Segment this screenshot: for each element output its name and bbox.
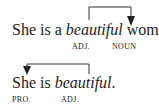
sentence-text: She is a (12, 21, 66, 38)
emphasized-adjective: beautiful (55, 74, 112, 91)
sentence-text: She is (12, 74, 55, 91)
sentence-text: woman. (123, 21, 159, 38)
sentence-text: . (112, 74, 116, 91)
part-of-speech-label-noun: NOUN (112, 43, 136, 51)
example-sentence-1: She is a beautiful woman. (12, 22, 159, 38)
emphasized-adjective: beautiful (66, 21, 123, 38)
part-of-speech-label-adj: ADJ. (72, 43, 90, 51)
part-of-speech-label-adj: ADJ. (61, 96, 79, 104)
part-of-speech-label-pro: PRO. (12, 96, 31, 104)
example-sentence-2: She is beautiful. (12, 75, 116, 91)
